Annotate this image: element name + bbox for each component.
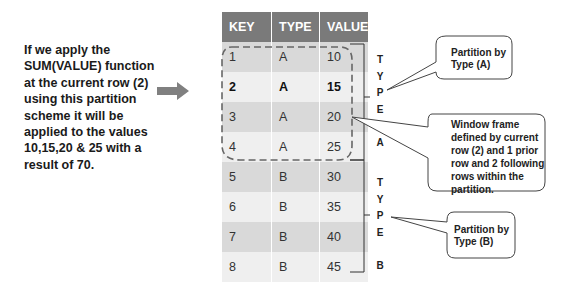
- cell-value: 15: [320, 72, 369, 102]
- callout-partition-b-text: Partition by Type (B): [454, 224, 509, 248]
- cell-type: A: [272, 72, 320, 102]
- column-header-key: KEY: [222, 12, 272, 42]
- table-header-row: KEY TYPE VALUE: [222, 12, 368, 42]
- cell-type: A: [272, 102, 320, 132]
- callout-line: Type (A): [451, 59, 506, 71]
- callout-line: Type (B): [454, 236, 509, 248]
- cell-key: 4: [222, 132, 272, 162]
- label-letter: E: [374, 225, 386, 242]
- table-row: 8 B 45: [222, 252, 368, 282]
- cell-value: 10: [320, 42, 369, 72]
- table-row: 4 A 25: [222, 132, 368, 162]
- label-letter: E: [374, 102, 386, 119]
- callout-line: Partition by: [454, 224, 509, 236]
- column-header-type: TYPE: [272, 12, 320, 42]
- cell-key: 7: [222, 222, 272, 252]
- explanation-line: using this partition: [24, 91, 224, 107]
- callout-line: row and 2 following: [451, 157, 544, 170]
- cell-type: B: [272, 192, 320, 222]
- column-header-value: VALUE: [320, 12, 369, 42]
- explanation-line: at the current row (2): [24, 75, 224, 91]
- label-spacer: [374, 118, 386, 135]
- callout-line: defined by current: [451, 131, 544, 144]
- partition-a-label: T Y P E A: [374, 52, 386, 151]
- explanation-line: result of 70.: [24, 157, 224, 173]
- cell-value: 45: [320, 252, 369, 282]
- cell-type: B: [272, 222, 320, 252]
- cell-key: 8: [222, 252, 272, 282]
- label-letter: A: [374, 135, 386, 152]
- cell-type: B: [272, 162, 320, 192]
- explanation-line: SUM(VALUE) function: [24, 58, 224, 74]
- explanation-text: If we apply the SUM(VALUE) function at t…: [24, 42, 224, 173]
- callout-line: Window frame: [451, 118, 544, 131]
- callout-partition-a-text: Partition by Type (A): [451, 47, 506, 71]
- callout-line: rows within the: [451, 170, 544, 183]
- label-letter: Y: [374, 69, 386, 86]
- table-row: 1 A 10: [222, 42, 368, 72]
- label-letter: T: [374, 52, 386, 69]
- cell-key: 2: [222, 72, 272, 102]
- right-arrow-icon: [157, 82, 189, 100]
- explanation-line: scheme it will be: [24, 108, 224, 124]
- table-row: 6 B 35: [222, 192, 368, 222]
- table-row: 5 B 30: [222, 162, 368, 192]
- label-letter: P: [374, 208, 386, 225]
- cell-type: A: [272, 42, 320, 72]
- cell-value: 20: [320, 102, 369, 132]
- cell-key: 1: [222, 42, 272, 72]
- callout-line: row (2) and 1 prior: [451, 144, 544, 157]
- table-row-current: 2 A 15: [222, 72, 368, 102]
- explanation-line: applied to the values: [24, 124, 224, 140]
- label-letter: Y: [374, 192, 386, 209]
- cell-value: 25: [320, 132, 369, 162]
- table-row: 7 B 40: [222, 222, 368, 252]
- label-letter: B: [374, 258, 386, 275]
- cell-value: 30: [320, 162, 369, 192]
- cell-key: 5: [222, 162, 272, 192]
- cell-type: A: [272, 132, 320, 162]
- cell-value: 35: [320, 192, 369, 222]
- cell-value: 40: [320, 222, 369, 252]
- data-table: KEY TYPE VALUE 1 A 10 2 A 15 3 A 20 4 A …: [222, 12, 368, 282]
- label-spacer: [374, 241, 386, 258]
- callout-line: Partition by: [451, 47, 506, 59]
- explanation-line: If we apply the: [24, 42, 224, 58]
- cell-key: 6: [222, 192, 272, 222]
- explanation-line: 10,15,20 & 25 with a: [24, 140, 224, 156]
- cell-key: 3: [222, 102, 272, 132]
- label-letter: T: [374, 175, 386, 192]
- table-row: 3 A 20: [222, 102, 368, 132]
- label-letter: P: [374, 85, 386, 102]
- cell-type: B: [272, 252, 320, 282]
- partition-b-label: T Y P E B: [374, 175, 386, 274]
- callout-window-frame-text: Window frame defined by current row (2) …: [451, 118, 544, 196]
- callout-line: partition.: [451, 183, 544, 196]
